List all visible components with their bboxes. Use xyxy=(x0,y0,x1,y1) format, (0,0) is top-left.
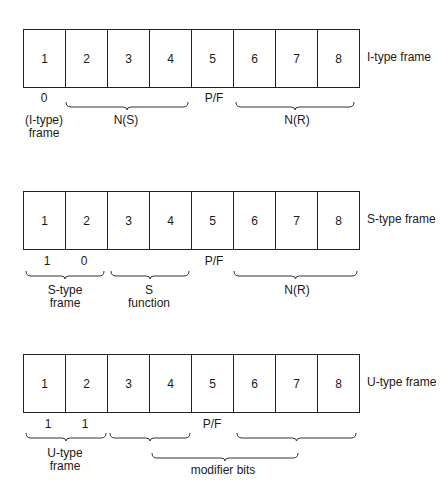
curly-brace-icon xyxy=(111,271,189,279)
bit-cell: 1 xyxy=(24,355,66,412)
frame-title: U-type frame xyxy=(367,375,436,389)
bit-cell: 1 xyxy=(24,30,66,87)
bit-value: 0 xyxy=(41,92,48,105)
bit-value: 1 xyxy=(44,255,51,268)
curly-brace-icon xyxy=(237,433,356,441)
field-label: frame xyxy=(50,460,81,473)
curly-brace-icon xyxy=(152,453,298,461)
bit-value: P/F xyxy=(205,255,224,268)
bit-cell: 2 xyxy=(66,192,108,249)
i-type-bit-cells: 1 2 3 4 5 6 7 8 xyxy=(23,29,360,88)
u-type-bit-cells: 1 2 3 4 5 6 7 8 xyxy=(23,354,360,413)
curly-brace-icon xyxy=(234,271,357,279)
field-label: N(S) xyxy=(114,114,139,127)
bit-cell: 7 xyxy=(276,30,318,87)
bit-value: 0 xyxy=(81,255,88,268)
bit-cell: 2 xyxy=(66,30,108,87)
curly-brace-icon xyxy=(26,271,104,279)
curly-brace-icon xyxy=(66,102,188,110)
frame-title: I-type frame xyxy=(367,50,431,64)
bit-cell: 5 xyxy=(192,355,234,412)
bit-value: P/F xyxy=(205,92,224,105)
bit-cell: 4 xyxy=(150,355,192,412)
field-label: frame xyxy=(29,127,60,140)
bit-cell: 4 xyxy=(150,30,192,87)
bit-cell: 8 xyxy=(318,192,359,249)
field-label: N(R) xyxy=(284,284,309,297)
bit-value: 1 xyxy=(45,418,52,431)
field-label: frame xyxy=(50,297,81,310)
bit-cell: 6 xyxy=(234,355,276,412)
s-type-bit-cells: 1 2 3 4 5 6 7 8 xyxy=(23,191,360,250)
bit-cell: 8 xyxy=(318,355,359,412)
bit-cell: 3 xyxy=(108,355,150,412)
bit-cell: 3 xyxy=(108,192,150,249)
curly-brace-icon xyxy=(236,102,354,110)
field-label: N(R) xyxy=(284,114,309,127)
bit-value: P/F xyxy=(203,418,222,431)
curly-brace-icon xyxy=(110,433,190,441)
bit-cell: 3 xyxy=(108,30,150,87)
bit-cell: 6 xyxy=(234,30,276,87)
bit-cell: 5 xyxy=(192,30,234,87)
bit-cell: 4 xyxy=(150,192,192,249)
field-label: modifier bits xyxy=(191,464,256,477)
bit-cell: 7 xyxy=(276,192,318,249)
bit-cell: 1 xyxy=(24,192,66,249)
bit-cell: 8 xyxy=(318,30,359,87)
bit-cell: 7 xyxy=(276,355,318,412)
curly-brace-icon xyxy=(26,433,106,441)
bit-cell: 6 xyxy=(234,192,276,249)
bit-cell: 5 xyxy=(192,192,234,249)
bit-cell: 2 xyxy=(66,355,108,412)
bit-value: 1 xyxy=(82,418,89,431)
field-label: function xyxy=(128,297,170,310)
frame-title: S-type frame xyxy=(367,212,436,226)
